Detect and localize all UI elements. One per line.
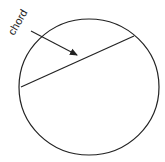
chord-label: chord — [5, 7, 29, 37]
chord-diagram: chord — [0, 0, 165, 162]
circle — [19, 19, 159, 155]
arrow-pointer — [31, 31, 77, 55]
chord-line — [21, 36, 134, 87]
